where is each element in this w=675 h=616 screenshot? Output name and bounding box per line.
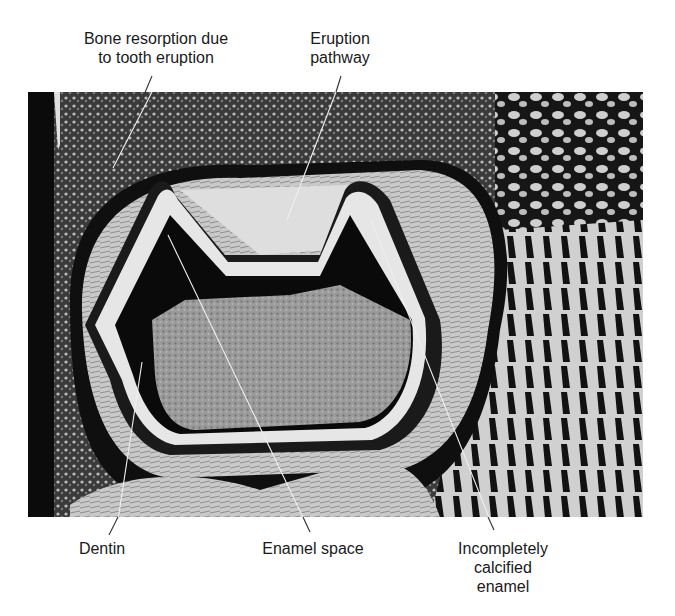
label-eruption-pathway-line2: pathway — [300, 48, 380, 67]
label-bone-resorption: Bone resorption due to tooth eruption — [64, 29, 248, 67]
label-enamel-space-text: Enamel space — [246, 539, 380, 558]
label-dentin: Dentin — [70, 539, 134, 558]
label-enamel-space: Enamel space — [246, 539, 380, 558]
label-dentin-text: Dentin — [70, 539, 134, 558]
label-ice-line1: Incompletely — [447, 539, 559, 558]
label-ice-line2: calcified — [447, 558, 559, 577]
tissue-section — [28, 92, 643, 517]
label-ice-line3: enamel — [447, 577, 559, 596]
label-eruption-pathway: Eruption pathway — [300, 29, 380, 67]
label-bone-resorption-line1: Bone resorption due — [64, 29, 248, 48]
label-incompletely-calcified-enamel: Incompletely calcified enamel — [447, 539, 559, 596]
micrograph-figure — [0, 0, 675, 616]
label-bone-resorption-line2: to tooth eruption — [64, 48, 248, 67]
label-eruption-pathway-line1: Eruption — [300, 29, 380, 48]
